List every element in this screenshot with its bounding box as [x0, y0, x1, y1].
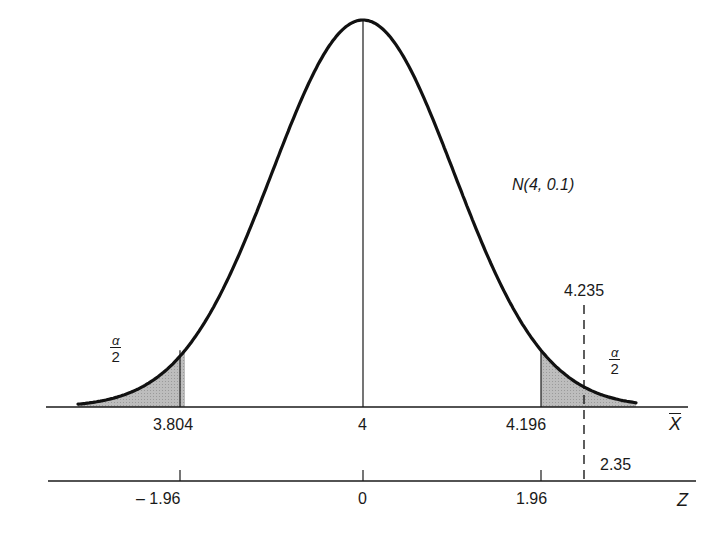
x-bar-axis-name: X: [669, 415, 681, 433]
denominator: 2: [611, 360, 619, 376]
alpha-symbol: α: [609, 346, 620, 360]
z-axis-name: Z: [677, 491, 688, 509]
right-tail-alpha-half-label: α 2: [609, 346, 620, 376]
z-tick-label-left: – 1.96: [136, 491, 180, 507]
z-marker-label: 2.35: [600, 457, 631, 473]
denominator: 2: [112, 348, 120, 364]
left-tail-alpha-half-label: α 2: [110, 334, 121, 364]
left-tail-shaded-region: [78, 350, 185, 407]
bell-curve: [78, 20, 636, 404]
z-tick-label-mid: 0: [358, 491, 367, 507]
z-tick-label-right: 1.96: [516, 491, 547, 507]
right-tail-shaded-region: [541, 350, 636, 407]
distribution-label: N(4, 0.1): [512, 177, 574, 193]
x-tick-label-right: 4.196: [506, 417, 546, 433]
x-marker-label: 4.235: [564, 283, 604, 299]
x-tick-label-mid: 4: [358, 417, 367, 433]
x-tick-label-left: 3.804: [153, 417, 193, 433]
alpha-symbol: α: [110, 334, 121, 348]
